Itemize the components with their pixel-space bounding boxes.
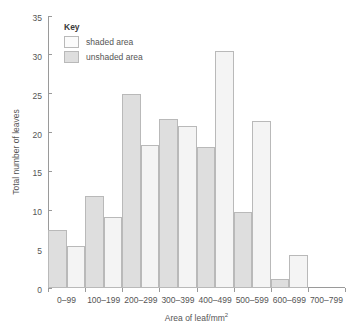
x-axis-tick-mark [85, 288, 86, 292]
x-axis-tick-mark [197, 288, 198, 292]
legend: Key shaded area unshaded area [64, 22, 143, 66]
legend-label-shaded: shaded area [86, 37, 133, 47]
x-axis-tick-label: 200–299 [124, 295, 157, 305]
y-axis-tick: 0 [37, 279, 48, 297]
y-axis-tick-mark [48, 210, 52, 211]
y-axis-tick: 25 [33, 85, 48, 103]
y-axis-tick: 15 [33, 162, 48, 180]
bar-shaded [252, 121, 271, 288]
y-axis-title-wrap: Total number of leaves [14, 0, 28, 335]
x-axis-tick-mark [159, 288, 160, 292]
y-axis-tick: 5 [37, 240, 48, 258]
x-axis-tick-label: 400–499 [199, 295, 232, 305]
bar-shaded [289, 255, 308, 288]
y-axis-tick-mark [48, 93, 52, 94]
x-axis-title-superscript: 2 [225, 312, 228, 318]
y-axis-tick-label: 15 [33, 168, 48, 178]
x-axis-tick-label: 700–799 [310, 295, 343, 305]
y-axis-tick-mark [48, 16, 52, 17]
legend-title: Key [64, 22, 143, 32]
y-axis-tick-label: 5 [37, 246, 48, 256]
y-axis-tick-label: 10 [33, 207, 48, 217]
x-axis-title-base: Area of leaf/mm [165, 313, 225, 323]
bar-shaded [215, 51, 234, 288]
y-axis-tick-label: 20 [33, 130, 48, 140]
bar-unshaded [48, 230, 67, 288]
y-axis-tick-label: 0 [37, 285, 48, 295]
bar-unshaded [122, 94, 141, 288]
y-axis-title: Total number of leaves [11, 109, 21, 195]
x-axis-tick-label: 300–399 [161, 295, 194, 305]
bar-shaded [67, 246, 86, 288]
y-axis-tick: 20 [33, 124, 48, 142]
x-axis-title: Area of leaf/mm2 [48, 312, 345, 323]
bar-unshaded [85, 196, 104, 288]
legend-item-shaded: shaded area [64, 36, 143, 48]
bar-chart: Total number of leaves 05101520253035 0–… [0, 0, 364, 335]
x-axis-tick-label: 0–99 [57, 295, 76, 305]
y-axis-tick-mark [48, 54, 52, 55]
legend-label-unshaded: unshaded area [86, 52, 143, 62]
y-axis-tick-label: 25 [33, 91, 48, 101]
x-axis-tick-mark [345, 288, 346, 292]
x-axis-tick-mark [48, 288, 49, 292]
y-axis-tick-label: 30 [33, 52, 48, 62]
x-axis-tick-label: 500–599 [236, 295, 269, 305]
legend-item-unshaded: unshaded area [64, 51, 143, 63]
legend-swatch-shaded-icon [64, 36, 79, 48]
bar-unshaded [159, 119, 178, 288]
bar-shaded [178, 126, 197, 288]
bar-shaded [141, 145, 160, 288]
y-axis-tick-label: 35 [33, 13, 48, 23]
legend-swatch-unshaded-icon [64, 51, 79, 63]
x-axis-tick-label: 100–199 [87, 295, 120, 305]
x-axis-tick-mark [308, 288, 309, 292]
x-axis-tick-label: 600–699 [273, 295, 306, 305]
bar-unshaded [271, 279, 290, 288]
y-axis-tick-mark [48, 171, 52, 172]
x-axis-tick-mark [234, 288, 235, 292]
bar-shaded [104, 217, 123, 288]
x-axis-tick-mark [122, 288, 123, 292]
bar-unshaded [234, 212, 253, 288]
y-axis-tick: 35 [33, 7, 48, 25]
y-axis-tick: 10 [33, 201, 48, 219]
y-axis-tick: 30 [33, 46, 48, 64]
y-axis-tick-mark [48, 132, 52, 133]
x-axis-tick-mark [271, 288, 272, 292]
bar-unshaded [197, 147, 216, 288]
